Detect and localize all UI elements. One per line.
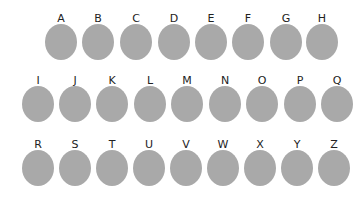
letter-circle[interactable] [59, 86, 91, 122]
letter-cell: B [81, 13, 115, 75]
letter-circle[interactable] [134, 86, 166, 122]
letter-cell: R [21, 139, 55, 201]
letter-cell: H [305, 13, 339, 75]
letter-cell: O [245, 75, 279, 137]
letter-circle[interactable] [321, 86, 353, 122]
letter-circle[interactable] [270, 24, 302, 60]
letter-cell: V [169, 139, 203, 201]
letter-cell: Q [320, 75, 354, 137]
row-2: IJKLMNOPQ [0, 75, 358, 137]
letter-circle[interactable] [284, 86, 316, 122]
letter-cell: T [95, 139, 129, 201]
letter-circle[interactable] [59, 150, 91, 186]
letter-circle[interactable] [170, 150, 202, 186]
letter-cell: I [21, 75, 55, 137]
row-1: ABCDEFGH [0, 13, 358, 75]
letter-cell: D [157, 13, 191, 75]
letter-circle[interactable] [22, 150, 54, 186]
letter-circle[interactable] [209, 86, 241, 122]
letter-cell: E [194, 13, 228, 75]
letter-cell: F [231, 13, 265, 75]
letter-cell: W [206, 139, 240, 201]
letter-cell: C [119, 13, 153, 75]
letter-cell: M [170, 75, 204, 137]
letter-circle[interactable] [306, 24, 338, 60]
letter-cell: J [58, 75, 92, 137]
letter-cell: Y [280, 139, 314, 201]
letter-circle[interactable] [281, 150, 313, 186]
letter-circle[interactable] [96, 86, 128, 122]
letter-circle[interactable] [120, 24, 152, 60]
letter-circle[interactable] [246, 86, 278, 122]
row-3: RSTUVWXYZ [0, 139, 358, 201]
letter-circle[interactable] [158, 24, 190, 60]
letter-circle[interactable] [133, 150, 165, 186]
letter-circle[interactable] [195, 24, 227, 60]
letter-cell: A [44, 13, 78, 75]
letter-cell: P [283, 75, 317, 137]
letter-cell: U [132, 139, 166, 201]
letter-circle[interactable] [171, 86, 203, 122]
letter-circle[interactable] [22, 86, 54, 122]
letter-cell: S [58, 139, 92, 201]
letter-circle[interactable] [244, 150, 276, 186]
letter-circle[interactable] [318, 150, 350, 186]
letter-cell: X [243, 139, 277, 201]
letter-cell: K [95, 75, 129, 137]
letter-circle[interactable] [45, 24, 77, 60]
letter-cell: N [208, 75, 242, 137]
letter-cell: G [269, 13, 303, 75]
letter-circle[interactable] [232, 24, 264, 60]
letter-circle[interactable] [207, 150, 239, 186]
letter-circle[interactable] [82, 24, 114, 60]
letter-cell: L [133, 75, 167, 137]
letter-cell: Z [317, 139, 351, 201]
letter-circle[interactable] [96, 150, 128, 186]
